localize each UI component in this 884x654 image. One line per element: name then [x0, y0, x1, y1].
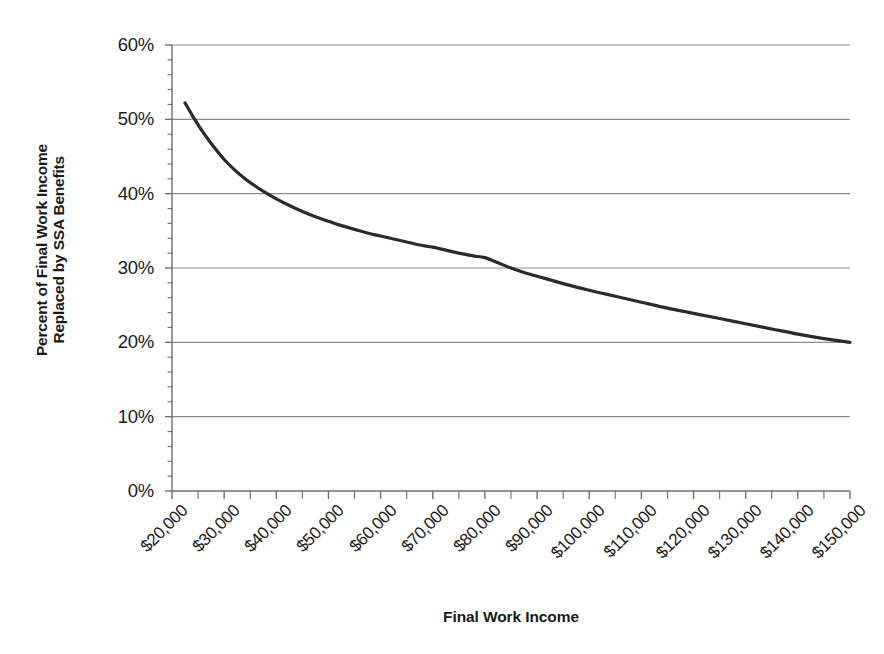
y-tick-label-10: 10% — [118, 406, 154, 428]
line-chart: Percent of Final Work Income Replaced by… — [0, 0, 884, 654]
y-axis-title: Percent of Final Work Income Replaced by… — [18, 0, 82, 500]
y-tick-label-20: 20% — [118, 331, 154, 353]
y-tick-label-30: 30% — [118, 257, 154, 279]
y-tick-label-40: 40% — [118, 183, 154, 205]
y-tick-label-50: 50% — [118, 108, 154, 130]
plot-area — [172, 45, 850, 491]
plot-svg — [172, 45, 850, 491]
y-tick-label-0: 0% — [128, 480, 154, 502]
gridlines — [172, 45, 850, 417]
x-axis-tick-labels: $20,000$30,000$40,000$50,000$60,000$70,0… — [172, 495, 850, 605]
data-series-line — [185, 103, 850, 342]
y-tick-label-60: 60% — [118, 34, 154, 56]
y-axis-title-line-1: Percent of Final Work Income — [34, 144, 50, 356]
x-axis-title: Final Work Income — [172, 608, 850, 626]
y-axis-major-ticks — [165, 45, 172, 491]
y-axis-tick-labels: 60%50%40%30%20%10%0% — [86, 45, 164, 491]
y-axis-title-line-2: Replaced by SSA Benefits — [51, 156, 67, 344]
